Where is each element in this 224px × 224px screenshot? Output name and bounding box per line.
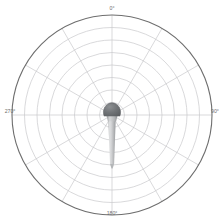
polar-plot-figure: 0° 90° 180° 270°: [0, 0, 224, 224]
axis-label-270-degrees: 270°: [5, 109, 16, 114]
grid-spoke: [62, 115, 112, 202]
axis-label-180-degrees: 180°: [107, 211, 118, 216]
microphone-illustration: [103, 103, 120, 169]
axis-label-90-degrees: 90°: [211, 109, 219, 114]
microphone-body: [108, 120, 115, 164]
polar-grid-svg: [0, 0, 224, 224]
grid-spoke: [25, 65, 112, 115]
grid-spoke: [112, 115, 162, 202]
grid-spoke: [112, 28, 162, 115]
grid-spoke: [25, 115, 112, 165]
grid-spoke: [112, 65, 199, 115]
grid-spoke: [62, 28, 112, 115]
microphone-tip: [110, 164, 114, 169]
axis-label-0-degrees: 0°: [110, 6, 115, 11]
grid-spoke: [112, 115, 199, 165]
